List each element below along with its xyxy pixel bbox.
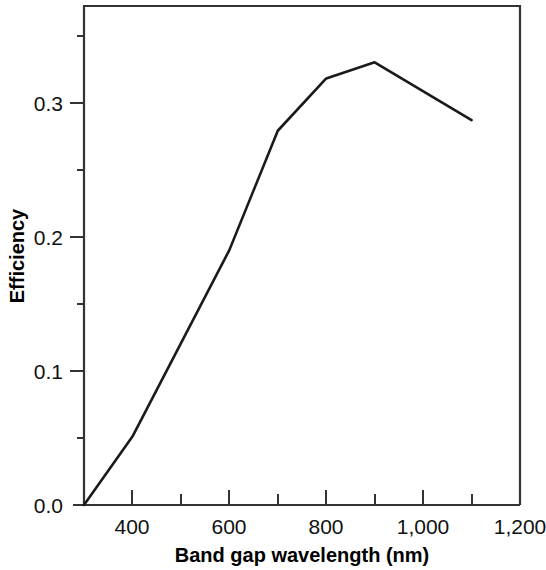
efficiency-vs-bandgap-chart: 400 600 800 1,000 1,200 0.0 0.1 0.2 0.3 … <box>0 0 546 570</box>
y-tick-label: 0.0 <box>34 494 63 517</box>
y-tick-label: 0.2 <box>34 226 63 249</box>
x-tick-label: 1,200 <box>494 515 546 538</box>
x-tick-labels: 400 600 800 1,000 1,200 <box>114 515 546 538</box>
chart-figure: 400 600 800 1,000 1,200 0.0 0.1 0.2 0.3 … <box>0 0 546 570</box>
x-tick-label: 1,000 <box>397 515 450 538</box>
y-tick-label: 0.3 <box>34 92 63 115</box>
x-tick-label: 600 <box>211 515 246 538</box>
y-axis-title: Efficiency <box>6 208 28 303</box>
x-tick-label: 400 <box>114 515 149 538</box>
efficiency-data-line <box>84 62 472 505</box>
x-axis-title: Band gap wavelength (nm) <box>175 544 429 566</box>
plot-frame <box>84 6 520 505</box>
y-tick-labels: 0.0 0.1 0.2 0.3 <box>34 92 63 517</box>
x-axis-ticks <box>84 490 520 505</box>
y-axis-ticks <box>70 36 84 505</box>
y-tick-label: 0.1 <box>34 360 63 383</box>
x-tick-label: 800 <box>308 515 343 538</box>
